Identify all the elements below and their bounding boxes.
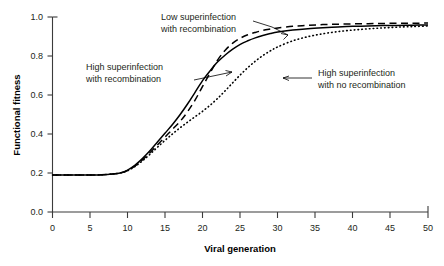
y-tick-label-3: 0.6 bbox=[30, 90, 43, 100]
x-axis-tick-labels: 0 5 10 15 20 25 30 35 40 45 50 bbox=[50, 223, 433, 233]
x-tick-label-9: 45 bbox=[385, 223, 395, 233]
series-line-high-superinfection-with-recombination bbox=[53, 25, 429, 175]
series-line-high-superinfection-with-no-recombination bbox=[53, 26, 429, 175]
x-tick-label-10: 50 bbox=[423, 223, 433, 233]
y-tick-label-1: 0.2 bbox=[30, 168, 43, 178]
x-tick-label-7: 35 bbox=[310, 223, 320, 233]
annotation-high-superinfection-recomb-line1: High superinfection bbox=[86, 62, 163, 72]
x-tick-label-5: 25 bbox=[235, 223, 245, 233]
x-tick-label-8: 40 bbox=[347, 223, 357, 233]
chart-figure: 0.0 0.2 0.4 0.6 0.8 1.0 0 5 10 15 bbox=[0, 0, 444, 266]
annotation-low-superinfection-line1: Low superinfection bbox=[161, 12, 236, 22]
annotation-high-superinfection-recomb-line2: with recombination bbox=[85, 74, 161, 84]
annotation-high-superinfection-norecomb-line2: with no recombination bbox=[317, 80, 406, 90]
y-tick-label-4: 0.8 bbox=[30, 51, 43, 61]
x-axis-title: Viral generation bbox=[204, 243, 276, 254]
annotation-high-superinfection-norecomb-line1: High superinfection bbox=[318, 68, 395, 78]
annotation-high-superinfection-norecomb: High superinfection with no recombinatio… bbox=[317, 68, 406, 90]
leader-arrowhead-low-superinfection bbox=[281, 34, 288, 40]
series-line-low-superinfection-with-recombination bbox=[53, 23, 429, 175]
x-axis-ticks bbox=[53, 212, 429, 218]
y-axis-title: Functional fitness bbox=[11, 74, 22, 155]
x-tick-label-0: 0 bbox=[50, 223, 55, 233]
axes-group bbox=[53, 17, 429, 212]
x-tick-label-2: 10 bbox=[122, 223, 132, 233]
y-axis-ticks bbox=[48, 17, 53, 212]
annotation-high-superinfection-recomb: High superinfection with recombination bbox=[85, 62, 163, 84]
x-tick-label-3: 15 bbox=[160, 223, 170, 233]
y-tick-label-2: 0.4 bbox=[30, 129, 43, 139]
x-tick-label-6: 30 bbox=[272, 223, 282, 233]
annotation-low-superinfection-line2: with recombination bbox=[160, 24, 236, 34]
data-series-group bbox=[53, 23, 429, 175]
annotation-low-superinfection: Low superinfection with recombination bbox=[160, 12, 236, 34]
x-tick-label-1: 5 bbox=[87, 223, 92, 233]
x-tick-label-4: 20 bbox=[197, 223, 207, 233]
y-axis-tick-labels: 0.0 0.2 0.4 0.6 0.8 1.0 bbox=[30, 12, 43, 217]
chart-plot-area: 0.0 0.2 0.4 0.6 0.8 1.0 0 5 10 15 bbox=[0, 0, 444, 266]
y-tick-label-5: 1.0 bbox=[30, 12, 43, 22]
y-tick-label-0: 0.0 bbox=[30, 207, 43, 217]
